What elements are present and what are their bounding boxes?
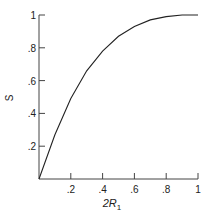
- y-tick-label: .8: [28, 43, 37, 54]
- chart: .2.4.6.81.2.4.6.81 S 2R1: [0, 0, 213, 216]
- x-tick-label: .6: [130, 184, 139, 195]
- y-tick-label: 1: [30, 10, 36, 21]
- x-label-main: 2R: [102, 197, 117, 209]
- axes: .2.4.6.81.2.4.6.81: [28, 10, 202, 195]
- data-curve: [39, 15, 198, 179]
- y-tick-label: .6: [28, 76, 37, 87]
- x-tick-label: .2: [67, 184, 76, 195]
- x-tick-label: 1: [195, 184, 201, 195]
- y-tick-label: .2: [28, 141, 37, 152]
- y-axis-label: S: [4, 94, 15, 101]
- y-tick-label: .4: [28, 108, 37, 119]
- x-label-sub: 1: [117, 203, 122, 212]
- x-tick-label: .8: [162, 184, 171, 195]
- x-tick-label: .4: [98, 184, 107, 195]
- x-axis-label: 2R1: [102, 197, 122, 212]
